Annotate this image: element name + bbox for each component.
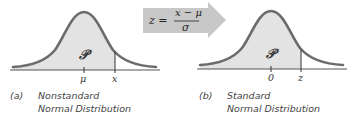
- formula-numerator: x − μ: [175, 7, 202, 18]
- shaded-area-a: [13, 12, 115, 70]
- z-label: z: [298, 72, 303, 83]
- caption-a-line1: Nonstandard: [38, 90, 99, 102]
- caption-a-line2: Normal Distribution: [38, 103, 131, 115]
- formula-lhs: z =: [149, 14, 168, 27]
- caption-tag-a: (a): [10, 90, 23, 102]
- probability-label-a: 𝒫: [79, 47, 88, 63]
- zero-label: 0: [268, 72, 274, 83]
- formula-denominator: σ: [182, 21, 189, 33]
- caption-tag-b: (b): [199, 90, 212, 102]
- caption-b-line1: Standard: [227, 90, 270, 102]
- caption-b-line2: Normal Distribution: [227, 103, 320, 115]
- mu-label: μ: [80, 73, 86, 84]
- probability-label-b: 𝒫: [266, 46, 275, 62]
- x-label: x: [112, 73, 117, 84]
